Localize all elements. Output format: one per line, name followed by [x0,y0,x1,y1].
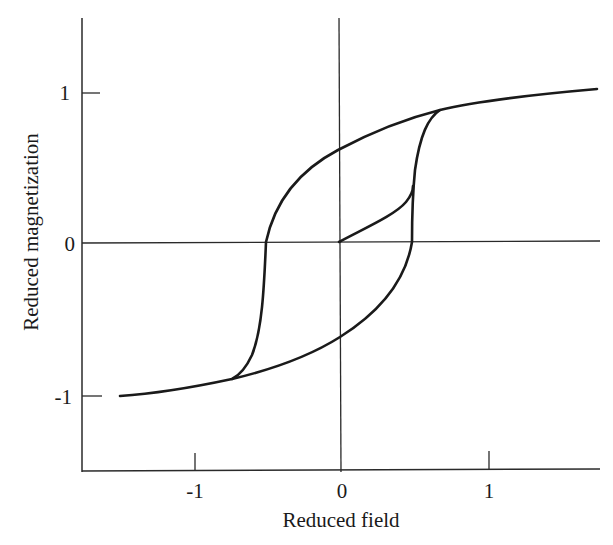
y-tick-label-0: 0 [65,232,76,256]
y-tick-label-neg1: -1 [55,385,73,409]
initial-magnetization-curve [339,186,413,242]
y-axis-label: Reduced magnetization [19,133,43,331]
x-axis-label: Reduced field [282,508,400,532]
zero-vertical-line [339,18,341,472]
hysteresis-chart: 1 0 -1 -1 0 1 Reduced field Reduced magn… [0,0,613,545]
x-tick-label-0: 0 [337,479,348,503]
y-tick-label-1: 1 [60,81,71,105]
x-tick-label-1: 1 [484,479,495,503]
x-tick-label-neg1: -1 [186,479,204,503]
